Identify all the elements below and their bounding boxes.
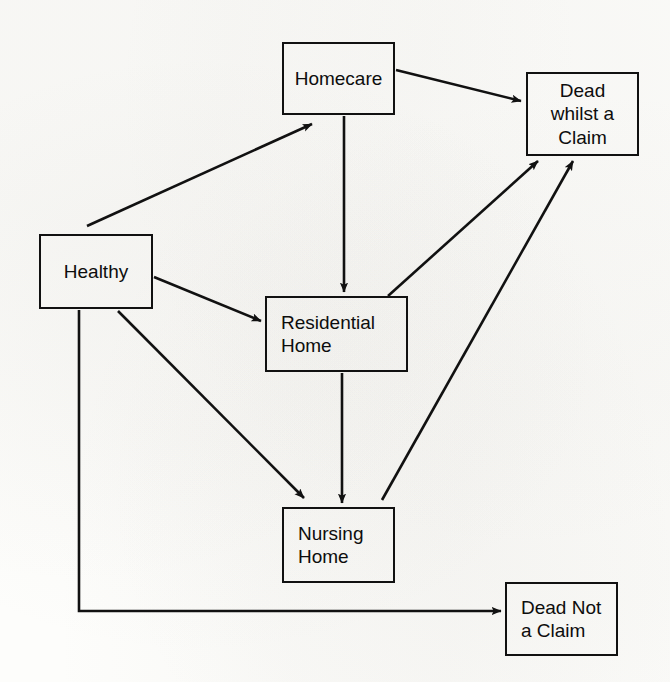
edge-healthy-to-residential-home (154, 277, 261, 321)
node-nursing-home[interactable]: Nursing Home (282, 507, 395, 583)
edge-healthy-to-homecare (87, 124, 312, 226)
edge-residential-home-to-dead-whilst-claim (388, 161, 538, 296)
node-dead-whilst-a-claim-label: Dead whilst a Claim (551, 79, 614, 149)
node-residential-home[interactable]: Residential Home (265, 296, 408, 372)
node-homecare[interactable]: Homecare (282, 42, 395, 115)
node-dead-not-a-claim-label: Dead Not a Claim (521, 596, 601, 642)
node-residential-home-label: Residential Home (281, 311, 375, 357)
edge-homecare-to-dead-whilst-claim (396, 70, 521, 101)
node-nursing-home-label: Nursing Home (298, 522, 363, 568)
node-homecare-label: Homecare (295, 67, 383, 90)
diagram-page: Homecare Dead whilst a Claim Healthy Res… (0, 0, 670, 682)
node-healthy[interactable]: Healthy (39, 234, 153, 309)
node-healthy-label: Healthy (64, 260, 128, 283)
node-dead-whilst-a-claim[interactable]: Dead whilst a Claim (526, 72, 639, 156)
node-dead-not-a-claim[interactable]: Dead Not a Claim (505, 582, 618, 656)
edge-nursing-home-to-dead-whilst-claim (382, 161, 573, 500)
